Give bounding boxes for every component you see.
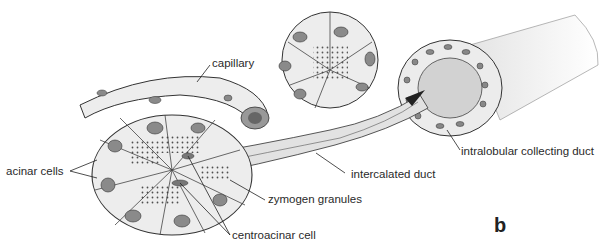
upper-acinus-shape <box>279 12 378 108</box>
label-acinar-cells: acinar cells <box>6 166 64 178</box>
label-capillary: capillary <box>212 58 254 70</box>
panel-letter: b <box>494 214 506 237</box>
label-centroacinar-cell: centroacinar cell <box>232 230 316 242</box>
diagram-drawing <box>0 0 606 244</box>
intralobular-collecting-duct-shape <box>398 15 598 136</box>
label-intralobular-collecting-duct: intralobular collecting duct <box>461 146 594 158</box>
pancreatic-acinus-diagram: capillary acinar cells zymogen granules … <box>0 0 606 244</box>
lower-acinus-shape <box>92 115 252 235</box>
label-intercalated-duct: intercalated duct <box>351 169 435 181</box>
label-zymogen-granules: zymogen granules <box>268 194 362 206</box>
